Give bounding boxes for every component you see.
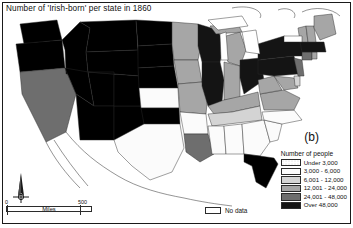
nodata-key: No data — [205, 207, 247, 214]
north-arrow-svg — [8, 172, 34, 204]
state-arkansas — [180, 112, 208, 134]
legend-label-4: 24,001 - 48,000 — [304, 193, 347, 202]
legend-row: 12,001 - 24,000 — [281, 184, 347, 193]
legend-label-5: Over 48,000 — [304, 201, 338, 210]
legend-row: Under 3,000 — [281, 159, 347, 168]
legend-label-0: Under 3,000 — [304, 159, 338, 168]
state-alabama — [224, 124, 244, 154]
legend-row: Over 48,000 — [281, 201, 347, 210]
state-maine — [314, 14, 336, 40]
state-north-dakota — [136, 20, 172, 46]
state-massachusetts — [300, 42, 326, 52]
legend-swatch-5 — [281, 202, 301, 209]
state-florida — [244, 154, 278, 188]
legend-swatch-1 — [281, 168, 301, 175]
scale-bar: 0 500 Miles — [6, 206, 92, 212]
legend-swatch-2 — [281, 176, 301, 183]
legend-label-3: 12,001 - 24,000 — [304, 184, 347, 193]
nodata-label: No data — [225, 207, 247, 214]
map-title: Number of 'Irish-born' per state in 1860 — [6, 4, 151, 13]
panel-letter: (b) — [304, 130, 319, 144]
legend-swatch-0 — [281, 159, 301, 166]
map-legend: Number of people Under 3,000 3,000 - 6,0… — [281, 150, 347, 210]
legend-row: 24,001 - 48,000 — [281, 193, 347, 202]
legend-label-2: 6,001 - 12,000 — [304, 176, 344, 185]
scale-tick-start — [7, 205, 8, 216]
legend-row: 3,000 - 6,000 — [281, 167, 347, 176]
state-indiana — [224, 62, 240, 100]
state-oklahoma — [141, 108, 180, 124]
state-delaware — [294, 76, 300, 86]
state-rhode-island — [312, 52, 317, 59]
state-montana — [80, 20, 138, 52]
legend-swatch-nodata — [205, 207, 221, 214]
baja-outline — [46, 140, 88, 188]
state-oregon — [16, 40, 65, 72]
lake-ontario — [284, 36, 302, 42]
state-connecticut — [302, 52, 312, 60]
state-minnesota — [172, 22, 202, 60]
scale-units-label: Miles — [7, 206, 91, 212]
scale-bar-track: Miles — [6, 206, 92, 212]
legend-title: Number of people — [281, 150, 347, 157]
state-kansas — [139, 88, 179, 108]
state-california — [20, 68, 76, 142]
scale-tick-end — [80, 205, 81, 216]
legend-row: 6,001 - 12,000 — [281, 176, 347, 185]
irish-born-choropleth-figure: Number of 'Irish-born' per state in 1860… — [0, 0, 353, 228]
state-nebraska — [138, 66, 178, 88]
state-louisiana — [184, 134, 214, 162]
state-idaho — [62, 22, 90, 74]
legend-label-1: 3,000 - 6,000 — [304, 167, 340, 176]
legend-swatch-3 — [281, 185, 301, 192]
north-arrow-icon — [8, 172, 34, 204]
state-south-dakota — [138, 44, 174, 68]
legend-swatch-4 — [281, 193, 301, 200]
state-iowa — [174, 60, 202, 84]
